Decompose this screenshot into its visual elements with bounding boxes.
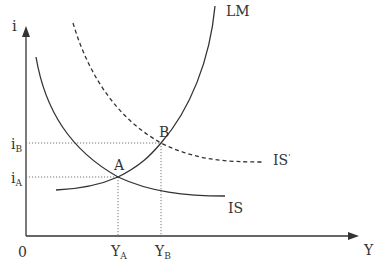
is-label: IS: [228, 201, 243, 215]
x-axis-arrow-icon: [348, 232, 359, 240]
y-axis-arrow-icon: [22, 26, 30, 37]
ya-tick-label: YA: [111, 244, 127, 258]
yb-sub: B: [164, 251, 171, 261]
is-prime-label-base: IS: [273, 152, 288, 168]
is-prime-label-prime: ': [288, 152, 290, 161]
lm-label: LM: [226, 4, 250, 18]
ya-base: Y: [111, 243, 120, 259]
ya-sub: A: [120, 251, 127, 261]
is-prime-label: IS': [273, 153, 290, 167]
guide-lines: [26, 143, 161, 236]
ib-tick-label: iB: [11, 137, 22, 151]
is-prime-curve: [73, 23, 263, 162]
ib-sub: B: [15, 144, 22, 154]
origin-label: 0: [18, 245, 27, 259]
y-axis-label: i: [12, 19, 17, 34]
x-axis-label: Y: [364, 243, 373, 257]
axes: [22, 26, 359, 240]
point-b-label: B: [159, 125, 169, 139]
yb-tick-label: YB: [155, 244, 171, 258]
is-lm-diagram: [0, 0, 383, 265]
lm-curve: [56, 6, 215, 190]
yb-base: Y: [155, 243, 164, 259]
ia-tick-label: iA: [11, 171, 22, 185]
is-curve: [36, 57, 225, 196]
ia-sub: A: [15, 178, 22, 188]
point-a-label: A: [114, 158, 124, 172]
